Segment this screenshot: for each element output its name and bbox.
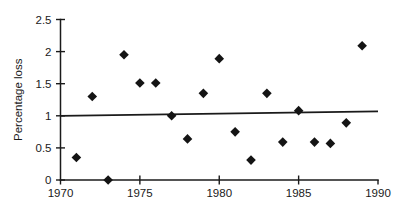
y-tick-label: 1	[45, 110, 51, 122]
y-tick-label: 2.5	[36, 14, 52, 26]
y-tick-label: 1.5	[36, 78, 52, 90]
data-point-marker	[199, 89, 209, 99]
y-tick-label: 2	[45, 46, 51, 58]
data-point-marker	[119, 50, 129, 60]
scatter-chart: 00.511.522.5 19701975198019851990 Percen…	[0, 0, 403, 211]
data-point-marker	[183, 134, 193, 144]
data-point-marker	[167, 111, 177, 121]
data-point-marker	[135, 78, 145, 88]
x-tick-label: 1985	[286, 187, 312, 199]
data-point-marker	[103, 175, 113, 185]
data-point-marker	[310, 137, 320, 147]
x-tick-label: 1980	[206, 187, 232, 199]
data-point-marker	[151, 78, 161, 88]
plot-canvas: 00.511.522.5 19701975198019851990 Percen…	[0, 0, 403, 211]
data-point-marker	[341, 118, 351, 128]
y-tick-label: 0	[45, 174, 51, 186]
data-point-marker	[72, 153, 82, 163]
x-tick-label: 1990	[365, 187, 391, 199]
y-tick-label: 0.5	[36, 142, 52, 154]
data-point-marker	[230, 127, 240, 137]
data-point-marker	[246, 155, 256, 165]
data-point-marker	[357, 41, 367, 51]
data-point-marker	[262, 89, 272, 99]
data-point-marker	[326, 139, 336, 149]
trend-line	[61, 111, 379, 115]
data-point-marker	[294, 106, 304, 116]
y-axis-title: Percentage loss	[12, 58, 24, 141]
x-tick-label: 1975	[127, 187, 153, 199]
data-point-marker	[87, 92, 97, 102]
y-axis-tick-labels: 00.511.522.5	[36, 14, 52, 187]
x-axis-tick-labels: 19701975198019851990	[48, 187, 391, 199]
data-point-marker	[214, 54, 224, 64]
data-point-marker	[278, 137, 288, 147]
x-tick-label: 1970	[48, 187, 74, 199]
